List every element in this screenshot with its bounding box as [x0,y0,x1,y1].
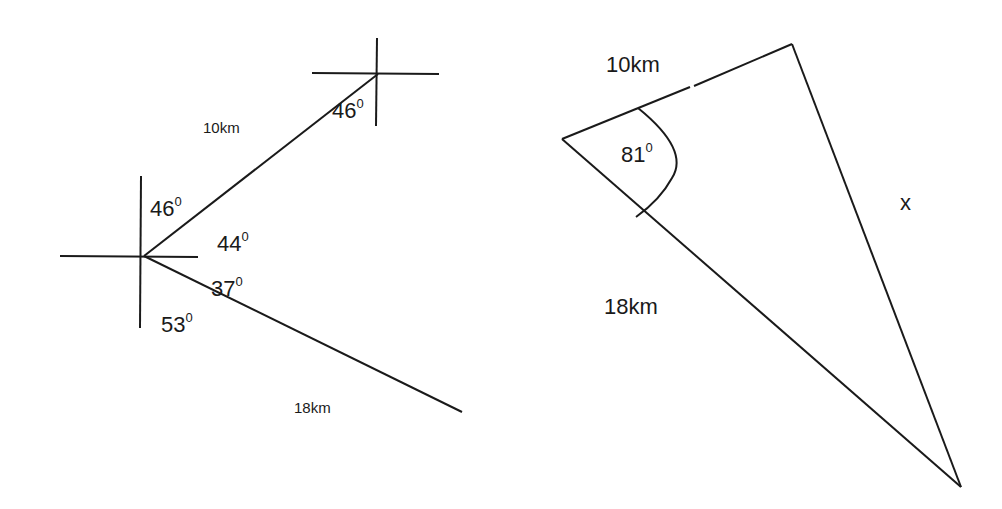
side-10km-line-a [562,87,690,139]
side-label-x: x [900,190,911,215]
angle-label-37: 370 [211,274,243,301]
side-label-10km: 10km [606,52,660,77]
angle-label-46-upper: 460 [332,96,364,123]
angle-label-53: 530 [161,310,193,337]
angle-label-44: 440 [217,229,249,256]
distance-label-18km: 18km [294,399,331,416]
left-bearing-diagram: 460 460 440 370 530 10km 18km [60,38,462,416]
upper-vertical-axis [376,38,377,126]
origin-horizontal-axis [60,256,198,257]
upper-horizontal-axis [312,73,439,74]
side-label-18km: 18km [604,294,658,319]
leg-18km-line [144,256,462,412]
angle-label-81: 810 [621,140,653,167]
right-triangle-diagram: 810 10km 18km x [562,44,961,487]
distance-label-10km: 10km [203,119,240,136]
origin-vertical-axis [140,176,141,328]
diagram-canvas: 460 460 440 370 530 10km 18km 810 10km 1… [0,0,1002,509]
side-x-line [792,44,961,487]
angle-label-46-origin: 460 [150,194,182,221]
side-10km-line-b [694,44,792,86]
